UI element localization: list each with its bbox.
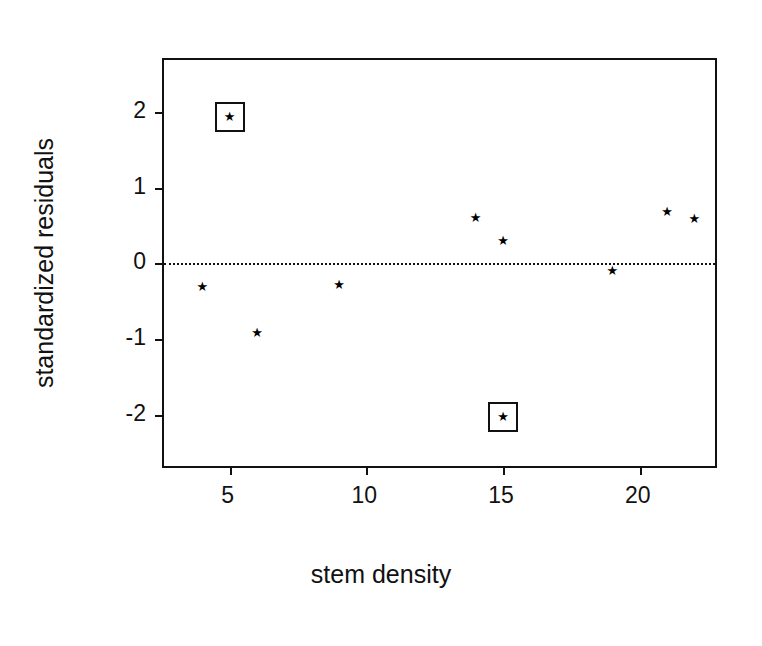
y-axis-label: standardized residuals	[22, 58, 66, 468]
x-tick-mark	[503, 466, 505, 475]
x-tick-label: 20	[625, 482, 651, 509]
y-tick-mark	[155, 415, 164, 417]
plot-inner-canvas	[164, 60, 715, 466]
data-point	[195, 280, 209, 294]
y-tick-label: 1	[100, 172, 146, 199]
data-point	[496, 410, 510, 424]
data-point	[687, 212, 701, 226]
x-tick-label: 10	[352, 482, 378, 509]
y-tick-mark	[155, 188, 164, 190]
x-tick-label: 15	[488, 482, 514, 509]
data-point	[332, 278, 346, 292]
x-tick-label: 5	[221, 482, 234, 509]
y-tick-label: 2	[100, 96, 146, 123]
data-point	[605, 264, 619, 278]
y-tick-label: -1	[100, 324, 146, 351]
y-tick-mark	[155, 339, 164, 341]
scatter-plot-figure: 5101520 210-1-2 stem density standardize…	[0, 0, 762, 646]
x-tick-mark	[230, 466, 232, 475]
y-tick-label: -2	[100, 400, 146, 427]
x-axis-label: stem density	[0, 560, 762, 589]
zero-reference-line	[164, 263, 715, 265]
y-tick-mark	[155, 112, 164, 114]
x-tick-mark	[366, 466, 368, 475]
y-tick-label: 0	[100, 248, 146, 275]
y-tick-mark	[155, 263, 164, 265]
data-point	[660, 205, 674, 219]
data-point	[250, 326, 264, 340]
x-tick-mark	[640, 466, 642, 475]
data-point	[496, 234, 510, 248]
data-point	[223, 110, 237, 124]
plot-frame	[162, 58, 717, 468]
data-point	[469, 211, 483, 225]
